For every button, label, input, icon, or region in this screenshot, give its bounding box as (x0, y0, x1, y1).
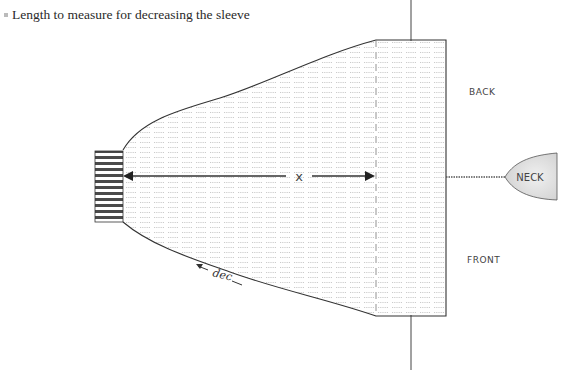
sleeve-diagram: x NECK BACK FRONT dec (0, 0, 563, 375)
cuff-ribbing (95, 151, 123, 222)
sleeve-shape (123, 40, 446, 316)
neck-label: NECK (516, 172, 544, 183)
back-label: BACK (469, 87, 496, 97)
dec-arrow-icon (196, 264, 203, 269)
measure-label: x (295, 169, 303, 184)
neck-shape: NECK (505, 153, 557, 200)
front-label: FRONT (467, 255, 500, 265)
